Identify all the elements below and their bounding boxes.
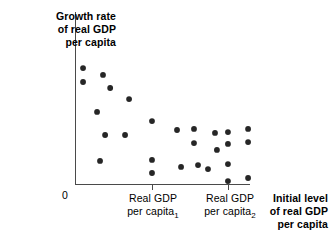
data-point [225, 129, 231, 135]
x-tick-label-1-text: Real GDP per capita [127, 192, 177, 217]
data-point [245, 126, 251, 132]
data-point [174, 127, 180, 133]
data-points-group [80, 65, 251, 184]
data-point [225, 141, 231, 147]
data-point [102, 132, 108, 138]
y-axis-label: Growth rate of real GDP per capita [6, 10, 116, 48]
data-point [100, 72, 106, 78]
data-point [149, 118, 155, 124]
data-point [195, 162, 201, 168]
data-point [149, 170, 155, 176]
data-point [126, 96, 132, 102]
x-tick-label-1-subscript: 1 [174, 211, 179, 220]
data-point [225, 178, 231, 184]
data-point [94, 109, 100, 115]
data-point [178, 164, 184, 170]
data-point [149, 157, 155, 163]
data-point [80, 65, 86, 71]
data-point [191, 126, 197, 132]
data-point [107, 85, 113, 91]
x-tick-label-2-text: Real GDP per capita [204, 192, 254, 217]
data-point [214, 147, 220, 153]
data-point [80, 79, 86, 85]
data-point [97, 158, 103, 164]
data-point [225, 161, 231, 167]
data-point [212, 130, 218, 136]
data-point [191, 140, 197, 146]
x-axis-title: Initial level of real GDP per capita [252, 192, 328, 230]
data-point [245, 139, 251, 145]
data-point [205, 166, 211, 172]
growth-convergence-figure: Growth rate of real GDP per capita 0 Rea… [0, 0, 331, 243]
origin-label: 0 [58, 189, 72, 202]
data-point [122, 132, 128, 138]
data-point [245, 175, 251, 181]
